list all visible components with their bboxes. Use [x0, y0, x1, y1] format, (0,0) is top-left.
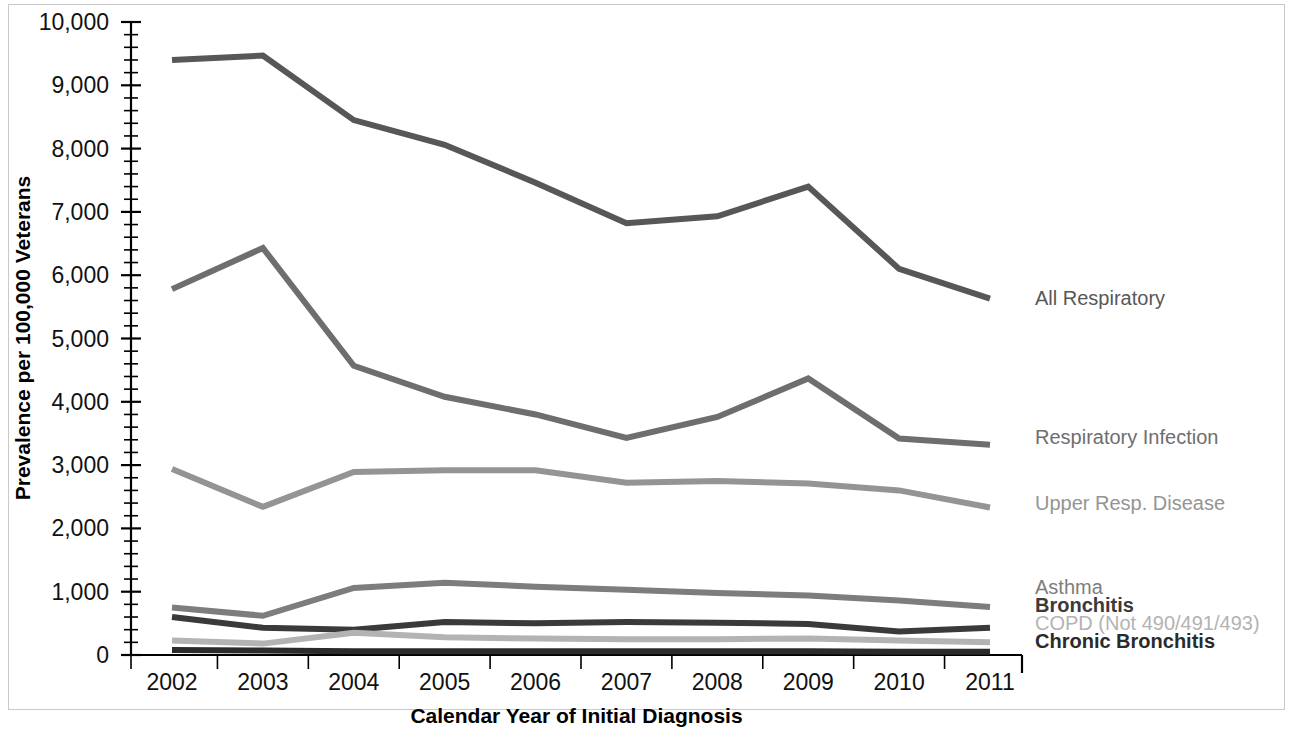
- y-axis-title: Prevalence per 100,000 Veterans: [11, 176, 34, 501]
- y-tick-label: 2,000: [51, 515, 109, 541]
- series-line-6: [172, 650, 990, 652]
- x-tick-label: 2002: [146, 669, 197, 695]
- line-chart: 01,0002,0003,0004,0005,0006,0007,0008,00…: [0, 0, 1291, 736]
- y-tick-label: 1,000: [51, 579, 109, 605]
- series-label-0: All Respiratory: [1035, 287, 1165, 309]
- x-axis-title: Calendar Year of Initial Diagnosis: [410, 704, 742, 727]
- x-tick-label: 2007: [601, 669, 652, 695]
- series-line-2: [172, 469, 990, 508]
- x-tick-label: 2003: [237, 669, 288, 695]
- series-line-1: [172, 248, 990, 445]
- x-tick-label: 2010: [874, 669, 925, 695]
- y-tick-label: 0: [96, 642, 109, 668]
- y-tick-label: 3,000: [51, 452, 109, 478]
- y-tick-label: 10,000: [39, 9, 109, 35]
- series-label-1: Respiratory Infection: [1035, 426, 1218, 448]
- x-tick-label: 2009: [783, 669, 834, 695]
- y-tick-label: 9,000: [51, 72, 109, 98]
- x-tick-label: 2006: [510, 669, 561, 695]
- x-tick-label: 2008: [692, 669, 743, 695]
- x-tick-label: 2005: [419, 669, 470, 695]
- x-tick-label: 2011: [965, 669, 1014, 695]
- chart-page: 01,0002,0003,0004,0005,0006,0007,0008,00…: [0, 0, 1291, 736]
- series-line-5: [172, 633, 990, 644]
- y-tick-label: 4,000: [51, 389, 109, 415]
- y-tick-label: 8,000: [51, 136, 109, 162]
- series-line-3: [172, 583, 990, 616]
- series-label-2: Upper Resp. Disease: [1035, 492, 1225, 514]
- series-label-6: Chronic Bronchitis: [1035, 630, 1215, 652]
- y-tick-label: 6,000: [51, 262, 109, 288]
- y-tick-label: 5,000: [51, 326, 109, 352]
- x-tick-label: 2004: [328, 669, 379, 695]
- y-tick-label: 7,000: [51, 199, 109, 225]
- series-line-0: [172, 56, 990, 299]
- series-line-4: [172, 617, 990, 632]
